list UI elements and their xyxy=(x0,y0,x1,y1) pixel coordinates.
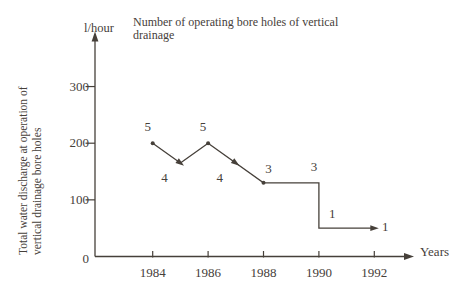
chart-title-line2: drainage xyxy=(133,29,338,42)
x-axis-arrow-icon xyxy=(404,253,414,260)
line-arrow-icon xyxy=(231,158,241,168)
borehole-count-annotation: 1 xyxy=(329,206,336,222)
chart-title: Number of operating bore holes of vertic… xyxy=(133,16,338,42)
borehole-count-annotation: 4 xyxy=(217,170,224,186)
x-tick-label-1984: 1984 xyxy=(140,265,166,281)
y-axis-unit-label: l/hour xyxy=(84,21,114,36)
line-arrow-icon xyxy=(370,225,379,231)
x-tick-label-1992: 1992 xyxy=(361,265,387,281)
borehole-count-annotation: 5 xyxy=(200,119,207,135)
y-axis-label: Total water discharge at operation of ve… xyxy=(16,55,44,255)
x-tick-label-1986: 1986 xyxy=(195,265,221,281)
borehole-count-annotation: 3 xyxy=(311,159,318,175)
y-axis-label-line1: Total water discharge at operation of xyxy=(16,55,30,255)
y-axis-label-line2: vertical drainage bore holes xyxy=(30,55,44,255)
y-tick-label-200: 200 xyxy=(70,135,90,151)
data-point-dot xyxy=(151,141,155,145)
x-tick-label-1990: 1990 xyxy=(306,265,332,281)
borehole-count-annotation: 1 xyxy=(382,219,389,235)
y-tick-label-300: 300 xyxy=(70,79,90,95)
x-tick-label-1988: 1988 xyxy=(251,265,277,281)
borehole-count-annotation: 3 xyxy=(265,161,272,177)
chart-figure: Number of operating bore holes of vertic… xyxy=(0,0,468,299)
y-tick-label-100: 100 xyxy=(70,192,90,208)
y-tick-label-0: 0 xyxy=(83,251,90,267)
data-line xyxy=(153,143,375,228)
data-point-dot xyxy=(206,141,210,145)
borehole-count-annotation: 4 xyxy=(161,170,168,186)
borehole-count-annotation: 5 xyxy=(144,119,151,135)
data-point-dot xyxy=(262,181,266,185)
x-axis-label: Years xyxy=(420,244,449,260)
